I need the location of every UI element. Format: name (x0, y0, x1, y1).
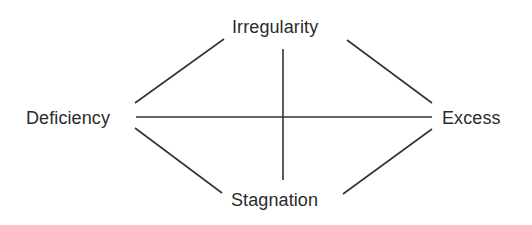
edge-deficiency-irregularity (135, 39, 224, 103)
node-label-irregularity: Irregularity (232, 18, 318, 36)
edge-irregularity-excess (347, 40, 432, 103)
diagram-canvas: Irregularity Deficiency Excess Stagnatio… (0, 0, 532, 225)
edge-deficiency-stagnation (135, 128, 222, 193)
node-label-deficiency: Deficiency (26, 109, 110, 127)
node-label-excess: Excess (442, 109, 501, 127)
edge-stagnation-excess (343, 129, 432, 194)
node-label-stagnation: Stagnation (231, 191, 318, 209)
